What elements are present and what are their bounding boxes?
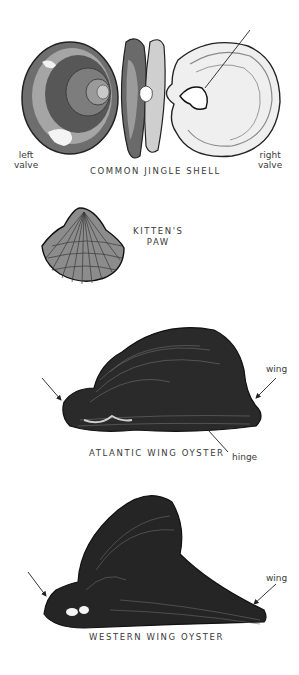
- kittens-paw-shell: [42, 208, 124, 284]
- left-valve-label: left valve: [14, 150, 38, 170]
- jingle-shell-left-valve: [22, 42, 118, 154]
- right-valve-label: right valve: [258, 150, 282, 170]
- illustration-layer: [0, 0, 299, 675]
- western-wing-label: wing: [266, 573, 287, 583]
- caption-line: PAW: [133, 237, 184, 248]
- label-line: valve: [14, 160, 38, 170]
- caption-line: KITTEN'S: [133, 226, 184, 237]
- jingle-shell-side-views: [121, 39, 165, 158]
- jingle-shell-right-valve: [166, 30, 280, 157]
- caption-common-jingle-shell: COMMON JINGLE SHELL: [90, 166, 221, 176]
- label-line: right: [258, 150, 282, 160]
- caption-atlantic-wing-oyster: ATLANTIC WING OYSTER: [89, 448, 225, 458]
- caption-kittens-paw: KITTEN'S PAW: [133, 226, 184, 248]
- label-line: left: [14, 150, 38, 160]
- hinge-label: hinge: [232, 452, 257, 462]
- label-line: valve: [258, 160, 282, 170]
- atlantic-wing-label: wing: [266, 364, 287, 374]
- atlantic-wing-oyster-shell: [42, 328, 276, 452]
- caption-western-wing-oyster: WESTERN WING OYSTER: [89, 632, 224, 642]
- western-wing-oyster-shell: [28, 496, 276, 628]
